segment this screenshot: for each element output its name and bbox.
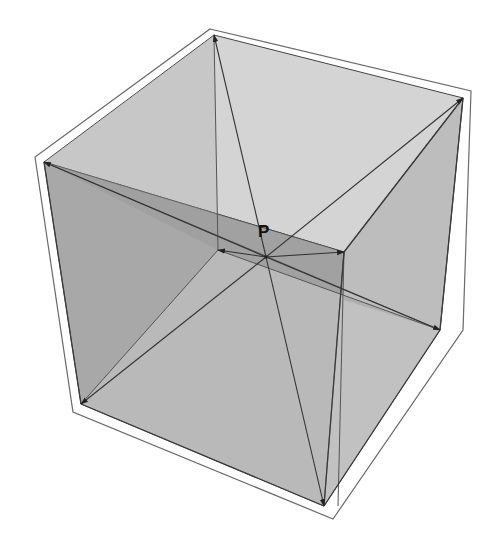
- point-p-dot: [264, 255, 268, 259]
- point-p-label: P: [258, 222, 269, 241]
- cube-diagram: P: [0, 0, 501, 547]
